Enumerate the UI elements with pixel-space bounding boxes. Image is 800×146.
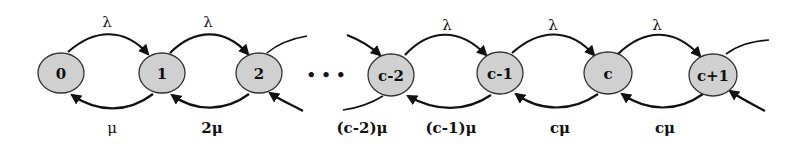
arrival-label: λ (442, 16, 452, 34)
arrival-arc-0-1 (68, 34, 148, 54)
node-c-2: c-2 (368, 54, 414, 96)
state-transition-diagram: 0 1 2 c-2 c-1 c c+1 • • • λ λ λ λ λ μ 2μ… (0, 0, 800, 146)
node-c: c (584, 52, 632, 94)
arrival-arc-c1-out (726, 40, 769, 54)
service-label: (c-1)μ (426, 119, 477, 137)
service-label: cμ (550, 119, 570, 137)
service-arc-c-c-1 (516, 94, 598, 108)
service-label: μ (107, 119, 117, 137)
arrival-arc-1-2 (170, 34, 248, 54)
arrival-label: λ (102, 13, 112, 31)
node-2: 2 (236, 53, 282, 93)
svg-text:c+1: c+1 (697, 67, 729, 85)
arrival-arc-c-2-c-1 (405, 35, 486, 55)
arrival-arc-2-out (267, 36, 307, 53)
service-arc-2-1 (172, 94, 249, 108)
arrival-label: λ (548, 16, 558, 34)
service-arc-c1-c (622, 94, 703, 108)
svg-text:c-2: c-2 (378, 67, 404, 85)
service-arc-c-2-out (343, 96, 383, 110)
service-arc-c-1-c-2 (408, 95, 491, 108)
service-arc-in-2 (270, 93, 303, 111)
svg-text:c-1: c-1 (487, 65, 513, 83)
arrival-arc-c-1-c (512, 34, 594, 55)
node-c-plus-1: c+1 (689, 54, 737, 96)
svg-text:0: 0 (56, 65, 66, 83)
arrival-arc-c-c1 (618, 35, 700, 56)
service-arc-in-c1 (730, 91, 765, 111)
ellipsis: • • • (306, 66, 345, 84)
svg-text:2: 2 (254, 65, 264, 83)
service-arc-1-0 (72, 94, 153, 108)
arrival-arc-in-c-2 (347, 35, 380, 55)
svg-text:1: 1 (157, 65, 167, 83)
service-label: 2μ (201, 119, 222, 137)
node-1: 1 (139, 53, 185, 93)
arrival-label: λ (203, 13, 213, 31)
node-c-1: c-1 (477, 52, 523, 94)
service-label: (c-2)μ (337, 119, 388, 137)
svg-text:c: c (603, 65, 612, 83)
node-0: 0 (38, 53, 84, 93)
arrival-label: λ (652, 16, 662, 34)
service-label: cμ (655, 119, 675, 137)
